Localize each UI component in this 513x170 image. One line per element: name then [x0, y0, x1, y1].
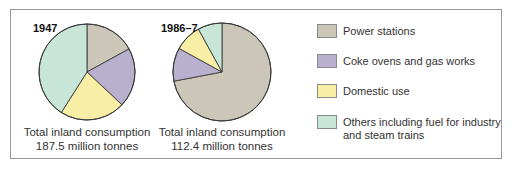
legend-item-domestic-use: Domestic use	[317, 84, 503, 98]
legend-swatch-coke-ovens	[317, 54, 337, 68]
pie-1947-year-label: 1947	[33, 22, 57, 34]
pie-1947	[39, 24, 135, 120]
pie-1986-7-caption: Total inland consumption 112.4 million t…	[147, 125, 297, 153]
legend-swatch-others	[317, 115, 337, 129]
legend-item-coke-ovens: Coke ovens and gas works	[317, 54, 503, 68]
legend-label: Others including fuel for industry and s…	[343, 116, 503, 142]
legend-label: Coke ovens and gas works	[343, 55, 503, 68]
legend-label: Domestic use	[343, 85, 503, 98]
pie-1986-7	[173, 23, 271, 121]
pie-1947-caption-line2: 187.5 million tonnes	[12, 139, 162, 153]
pie-1986-7-caption-line1: Total inland consumption	[147, 125, 297, 139]
legend-item-power-stations: Power stations	[317, 24, 503, 38]
legend-item-others: Others including fuel for industry and s…	[317, 115, 503, 142]
pie-1986-7-caption-line2: 112.4 million tonnes	[147, 139, 297, 153]
pie-1947-caption-line1: Total inland consumption	[12, 125, 162, 139]
legend-swatch-power-stations	[317, 24, 337, 38]
legend-swatch-domestic-use	[317, 84, 337, 98]
legend-label: Power stations	[343, 25, 503, 38]
pie-1947-caption: Total inland consumption 187.5 million t…	[12, 125, 162, 153]
pie-1986-7-year-label: 1986–7	[161, 22, 198, 34]
